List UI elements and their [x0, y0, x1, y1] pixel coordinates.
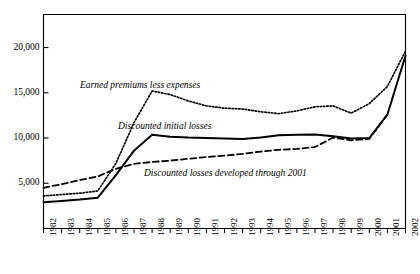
x-axis-tick-label: 1983	[66, 218, 76, 236]
x-axis-tick-label: 1997	[319, 218, 329, 236]
x-axis-tick-label: 1994	[265, 218, 275, 236]
series-annotation-label: Discounted losses developed through 2001	[144, 168, 307, 178]
x-axis-tick-label: 1984	[84, 218, 94, 236]
series-annotation-label: Earned premiums less expenses	[80, 80, 200, 90]
series-line	[44, 56, 406, 203]
x-axis-tick-label: 1988	[156, 218, 166, 236]
x-axis-tick-label: 1987	[138, 218, 148, 236]
x-axis-tick-label: 1991	[210, 218, 220, 236]
x-axis-tick-label: 1996	[301, 218, 311, 236]
x-axis-tick-label: 1986	[120, 218, 130, 236]
x-axis-tick-label: 1993	[247, 218, 257, 236]
x-axis-tick-label: 2000	[373, 218, 383, 236]
y-axis-tick-label: 20,000	[6, 42, 40, 52]
x-axis-tick-label: 1995	[283, 218, 293, 236]
y-axis-tick-label: 10,000	[6, 132, 40, 142]
x-axis-tick-label: 1990	[192, 218, 202, 236]
x-axis-tick-label: 2002	[410, 218, 420, 236]
x-axis-tick-label: 2001	[391, 218, 401, 236]
x-axis-tick-label: 1998	[337, 218, 347, 236]
x-axis-tick-label: 1992	[229, 218, 239, 236]
x-axis-tick-label: 1989	[174, 218, 184, 236]
x-axis-tick-label: 1982	[48, 218, 58, 236]
x-axis-tick-label: 1999	[355, 218, 365, 236]
y-axis-tick-label: 5,000	[6, 177, 40, 187]
x-axis-tick-label: 1985	[102, 218, 112, 236]
series-annotation-label: Discounted initial losses	[118, 121, 211, 131]
y-axis-tick-label: 15,000	[6, 87, 40, 97]
